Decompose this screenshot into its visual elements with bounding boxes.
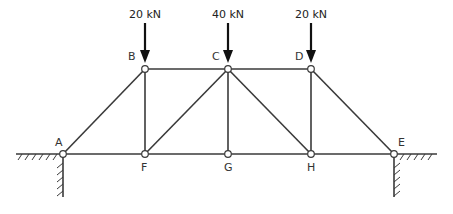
node-label-C: C	[212, 50, 220, 63]
node-D	[308, 66, 315, 73]
node-label-E: E	[398, 136, 405, 149]
member-AB	[63, 69, 145, 154]
node-label-F: F	[141, 161, 147, 174]
load-label-D: 20 kN	[295, 8, 327, 21]
support-right	[394, 154, 437, 197]
node-label-A: A	[55, 136, 63, 149]
node-H	[308, 151, 315, 158]
load-label-C: 40 kN	[212, 8, 244, 21]
node-G	[225, 151, 232, 158]
member-DE	[311, 69, 394, 154]
node-C	[225, 66, 232, 73]
load-arrow-B	[140, 23, 150, 63]
node-label-G: G	[224, 161, 233, 174]
node-F	[142, 151, 149, 158]
node-label-D: D	[295, 50, 303, 63]
truss-diagram: 20 kN 40 kN 20 kN A B C D E F G H	[0, 0, 453, 214]
node-E	[391, 151, 398, 158]
support-left	[16, 154, 63, 197]
node-label-H: H	[307, 161, 315, 174]
member-CH	[228, 69, 311, 154]
member-CF	[145, 69, 228, 154]
load-label-B: 20 kN	[129, 8, 161, 21]
node-B	[142, 66, 149, 73]
load-arrow-C	[223, 23, 233, 63]
node-label-B: B	[128, 50, 136, 63]
load-arrow-D	[306, 23, 316, 63]
node-A	[60, 151, 67, 158]
truss-members	[63, 69, 394, 154]
